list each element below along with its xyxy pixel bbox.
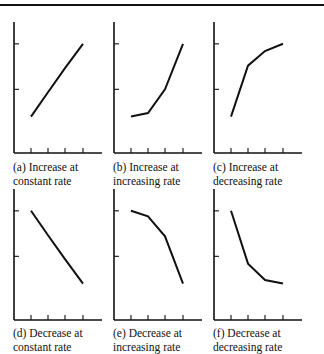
caption-f-line2: decreasing rate	[213, 340, 282, 354]
caption-c: (c) Increase at decreasing rate	[213, 160, 282, 188]
caption-a-line2: constant rate	[13, 174, 78, 188]
caption-d-line1: (d) Decrease at	[13, 326, 83, 340]
caption-c-line2: decreasing rate	[213, 174, 282, 188]
chart-panel-b	[114, 22, 202, 153]
caption-b: (b) Increase at increasing rate	[113, 160, 180, 188]
caption-e-line1: (e) Decrease at	[113, 326, 182, 340]
chart-panel-a	[14, 22, 102, 153]
data-line	[231, 211, 283, 284]
caption-e: (e) Decrease at increasing rate	[113, 326, 182, 354]
data-line	[231, 44, 283, 117]
caption-b-line1: (b) Increase at	[113, 160, 180, 174]
caption-f: (f) Decrease at decreasing rate	[213, 326, 282, 354]
caption-d-line2: constant rate	[13, 340, 83, 354]
chart-panel-e	[114, 189, 202, 320]
caption-a: (a) Increase at constant rate	[13, 160, 78, 188]
caption-e-line2: increasing rate	[113, 340, 182, 354]
chart-panel-f	[214, 189, 302, 320]
chart-panel-c	[214, 22, 302, 153]
caption-d: (d) Decrease at constant rate	[13, 326, 83, 354]
data-line	[31, 44, 83, 117]
caption-a-line1: (a) Increase at	[13, 160, 78, 174]
caption-b-line2: increasing rate	[113, 174, 180, 188]
chart-panel-d	[14, 189, 102, 320]
data-line	[131, 44, 183, 117]
data-line	[31, 211, 83, 284]
data-line	[131, 211, 183, 284]
caption-f-line1: (f) Decrease at	[213, 326, 282, 340]
caption-c-line1: (c) Increase at	[213, 160, 282, 174]
